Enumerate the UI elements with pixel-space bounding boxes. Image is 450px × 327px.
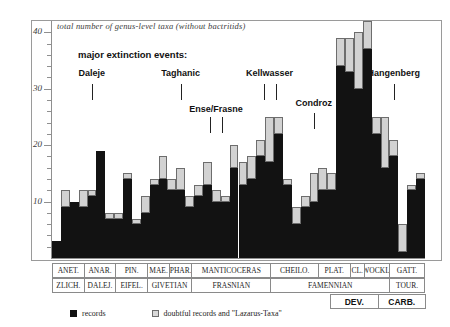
genus-zone-cell: WOCKL. [365, 263, 390, 278]
bar [212, 190, 221, 258]
bar-segment-doubtful [247, 156, 256, 179]
bar-segment-doubtful [203, 162, 212, 185]
bar [61, 190, 70, 258]
bar [363, 21, 372, 258]
bar [398, 224, 407, 258]
bar [301, 196, 310, 258]
bar-segment-records [416, 179, 425, 258]
bar [132, 219, 141, 259]
bar-segment-records [327, 190, 336, 258]
bar [167, 179, 176, 258]
bar [274, 117, 283, 258]
bar [239, 162, 248, 258]
bar-segment-records [167, 190, 176, 258]
stage-cell: FRASNIAN [192, 278, 271, 293]
bar [327, 173, 336, 258]
bar-segment-doubtful [265, 117, 274, 162]
bar [265, 117, 274, 258]
bar-segment-doubtful [310, 173, 319, 201]
bar-segment-doubtful [167, 179, 176, 190]
y-tick-major [44, 89, 52, 90]
bar-segment-records [150, 185, 159, 258]
bar-segment-doubtful [363, 21, 372, 49]
legend-item-records: records [70, 309, 106, 318]
bar-segment-doubtful [212, 190, 221, 201]
stage-cell: DALEJ. [85, 278, 117, 293]
bar-segment-doubtful [176, 168, 185, 191]
bar-segment-records [301, 207, 310, 258]
bar-segment-doubtful [141, 196, 150, 213]
genus-zone-cell: MAE. [148, 263, 170, 278]
y-tick-major [44, 145, 52, 146]
stage-cell: EIFEL. [116, 278, 148, 293]
bar-segment-records [159, 179, 168, 258]
bar-segment-doubtful [318, 168, 327, 191]
bar-segment-records [318, 190, 327, 258]
bar [194, 185, 203, 258]
bar [79, 190, 88, 258]
bar-segment-records [88, 196, 97, 258]
bar-segment-records [52, 241, 61, 258]
bar-series-layer [52, 21, 425, 258]
bar-segment-records [336, 66, 345, 258]
genus-zone-cell: ANAR. [85, 263, 117, 278]
bar [416, 173, 425, 258]
bar-segment-doubtful [194, 185, 203, 196]
bar [123, 173, 132, 258]
y-tick-label: 20 [20, 139, 42, 149]
legend-swatch-doubtful [152, 310, 159, 317]
bar [389, 140, 398, 259]
bar [283, 179, 292, 258]
bar-segment-doubtful [256, 140, 265, 157]
bar-segment-records [123, 179, 132, 258]
bar-segment-records [372, 134, 381, 258]
bar-segment-doubtful [372, 117, 381, 134]
bar [318, 168, 327, 258]
system-cell: DEV. [331, 294, 379, 309]
bar-segment-doubtful [398, 224, 407, 252]
stage-cell: GIVETIAN [148, 278, 192, 293]
bar-segment-records [398, 252, 407, 258]
y-tick-label: 40 [20, 26, 42, 36]
bar-segment-records [176, 190, 185, 258]
y-tick-major [44, 32, 52, 33]
bar-segment-records [345, 72, 354, 258]
bar-segment-records [61, 207, 70, 258]
bar [372, 117, 381, 258]
bar [310, 173, 319, 258]
chart-legend: records doubtful records and "Lazarus-Ta… [70, 309, 282, 318]
bar-segment-records [105, 219, 114, 259]
legend-label-records: records [82, 309, 106, 318]
bar [96, 151, 105, 258]
bar [150, 179, 159, 258]
bar-segment-records [389, 156, 398, 258]
legend-swatch-records [70, 310, 77, 317]
bar [203, 162, 212, 258]
bar-segment-records [185, 207, 194, 258]
bar-segment-doubtful [389, 140, 398, 157]
bar-segment-doubtful [185, 196, 194, 207]
bar-segment-records [283, 185, 292, 258]
system-cell: CARB. [379, 294, 427, 309]
bar-segment-doubtful [61, 190, 70, 207]
bar-segment-records [79, 207, 88, 258]
bar-segment-doubtful [327, 173, 336, 190]
bar [256, 140, 265, 259]
chart-figure: total number of genus-level taxa (withou… [0, 0, 450, 327]
bar [52, 241, 61, 258]
bar-segment-records [212, 202, 221, 258]
bar-segment-records [96, 151, 105, 258]
bar-segment-records [381, 168, 390, 258]
bar-segment-records [292, 224, 301, 258]
bar [141, 196, 150, 258]
bar-segment-doubtful [230, 145, 239, 168]
bar [114, 213, 123, 258]
bar-segment-records [239, 185, 248, 258]
genus-zone-cell: PHAR. [170, 263, 192, 278]
legend-label-doubtful: doubtful records and "Lazarus-Taxa" [164, 309, 282, 318]
bar-segment-doubtful [159, 156, 168, 179]
y-tick-label: 10 [20, 196, 42, 206]
bar-segment-records [256, 156, 265, 258]
y-tick-major [44, 202, 52, 203]
genus-zone-cell: MANTICOCERAS [192, 263, 271, 278]
